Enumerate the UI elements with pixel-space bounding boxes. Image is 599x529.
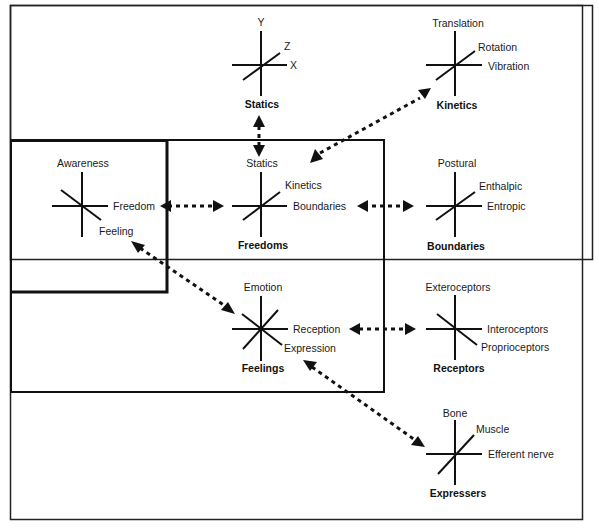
- label-top: Y: [257, 16, 264, 28]
- label-top: Exteroceptors: [426, 281, 491, 293]
- connector-feelings-receptors: [349, 323, 416, 335]
- label-right: Interoceptors: [487, 323, 548, 335]
- dotted-line: [320, 98, 420, 153]
- label-top: Postural: [438, 157, 477, 169]
- arrowhead-down-icon: [253, 145, 265, 157]
- label-top: Translation: [432, 17, 484, 29]
- label-diag: Proprioceptors: [481, 341, 549, 353]
- connector-feelings-expressers: [303, 360, 425, 447]
- node-boundaries: Postural Enthalpic Entropic Boundaries: [426, 157, 526, 252]
- connector-statics-freedoms: [253, 115, 265, 157]
- node-title: Boundaries: [427, 240, 485, 252]
- node-title: Receptors: [433, 362, 485, 374]
- label-right: Freedom: [113, 200, 155, 212]
- label-top: Awareness: [57, 157, 109, 169]
- node-receptors: Exteroceptors Interoceptors Propriocepto…: [426, 281, 550, 374]
- node-freedoms: Statics Kinetics Boundaries Freedoms: [232, 157, 346, 251]
- dotted-line: [312, 367, 415, 440]
- connector-awareness-freedoms: [160, 200, 224, 212]
- central-box: [11, 140, 384, 392]
- label-top: Bone: [443, 407, 468, 419]
- arrowhead-left-icon: [357, 200, 368, 212]
- node-expressers: Bone Muscle Efferent nerve Expressers: [426, 407, 554, 499]
- arrowhead-up-icon: [253, 115, 265, 127]
- label-right: Entropic: [487, 200, 526, 212]
- arrowhead-right-icon: [403, 200, 414, 212]
- node-title: Kinetics: [437, 99, 478, 111]
- node-title: Freedoms: [238, 239, 288, 251]
- label-diag: Expression: [284, 342, 336, 354]
- diagram-canvas: Y Z X Statics Translation Rotation Vibra…: [0, 0, 599, 529]
- label-right: Vibration: [488, 60, 529, 72]
- node-title: Expressers: [430, 487, 487, 499]
- node-statics: Y Z X Statics: [232, 16, 297, 110]
- node-title: Statics: [245, 98, 280, 110]
- arrowhead-icon: [221, 302, 235, 314]
- arrowhead-right-icon: [213, 200, 224, 212]
- label-right: Efferent nerve: [488, 448, 554, 460]
- outer-frame: [11, 6, 583, 520]
- connector-kinetics-freedoms: [310, 88, 431, 163]
- label-right: Boundaries: [293, 200, 346, 212]
- arrowhead-left-icon: [349, 323, 360, 335]
- label-diag: Feeling: [99, 225, 134, 237]
- label-right: X: [290, 59, 297, 71]
- label-top: Statics: [246, 157, 278, 169]
- node-awareness: Awareness Freedom Feeling: [52, 157, 155, 237]
- label-diag: Rotation: [478, 41, 517, 53]
- connector-awareness-feelings: [131, 241, 235, 314]
- node-feelings: Emotion Reception Expression Feelings: [232, 281, 340, 374]
- label-right: Reception: [293, 323, 340, 335]
- label-diag: Muscle: [476, 423, 509, 435]
- node-title: Feelings: [242, 362, 285, 374]
- arrowhead-icon: [418, 88, 431, 99]
- label-diag: Z: [284, 40, 291, 52]
- label-diag: Enthalpic: [479, 180, 522, 192]
- node-kinetics: Translation Rotation Vibration Kinetics: [426, 17, 529, 111]
- connector-freedoms-boundaries: [357, 200, 414, 212]
- label-top: Emotion: [244, 281, 283, 293]
- label-diag: Kinetics: [285, 179, 322, 191]
- arrowhead-icon: [131, 241, 145, 253]
- dotted-line: [140, 248, 225, 306]
- arrowhead-right-icon: [405, 323, 416, 335]
